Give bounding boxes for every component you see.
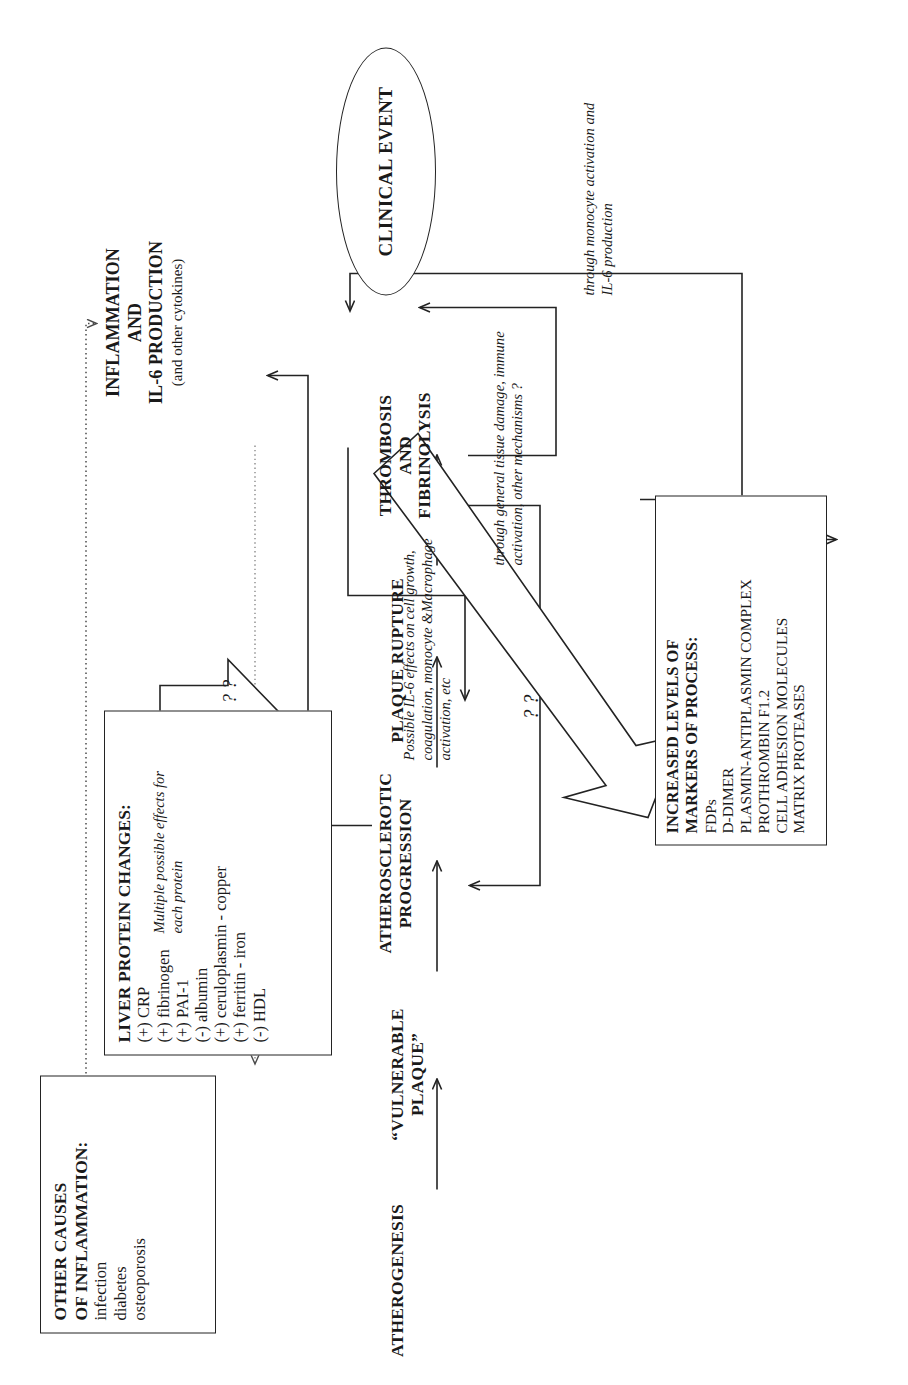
stage-progression-label-2: PROGRESSION [396, 773, 416, 953]
inflammation-il6-node: INFLAMMATION AND IL-6 PRODUCTION (and ot… [103, 204, 186, 440]
other-causes-header-line2: OF INFLAMMATION: [71, 1088, 92, 1320]
liver-protein-item-ceruloplasmin: (+) ceruloplasmin - copper [211, 723, 230, 1042]
markers-item-d-dimer: D-DIMER [719, 507, 737, 833]
other-causes-item-osteoporosis: osteoporosis [130, 1088, 149, 1320]
markers-header-line1: INCREASED LEVELS OF [664, 507, 683, 833]
inflammation-subtitle: (and other cytokines) [168, 204, 186, 440]
markers-item-prothrombin: PROTHROMBIN F1.2 [755, 507, 773, 833]
stage-atherogenesis: ATHEROGENESIS [388, 1195, 408, 1365]
liver-protein-item-ferritin: (+) ferritin - iron [230, 723, 249, 1042]
other-causes-box: OTHER CAUSES OF INFLAMMATION: infection … [40, 1075, 216, 1333]
markers-item-plasmin-antiplasmin: PLASMIN-ANTIPLASMIN COMPLEX [737, 507, 755, 833]
other-causes-item-diabetes: diabetes [111, 1088, 130, 1320]
note-il6-effects: Possible IL-6 effects on cell growth, co… [400, 528, 455, 760]
note-multiple-effects: Multiple possible effects for each prote… [150, 765, 186, 933]
liver-protein-item-hdl: (-) HDL [250, 723, 269, 1042]
liver-protein-item-albumin: (-) albumin [192, 723, 211, 1042]
stage-atherosclerotic-progression: ATHEROSCLEROTIC PROGRESSION [376, 773, 415, 953]
stage-vulnerable-plaque: “VULNERABLE PLAQUE” [388, 976, 427, 1172]
liver-protein-header: LIVER PROTEIN CHANGES: [114, 723, 134, 1042]
other-causes-item-infection: infection [91, 1088, 110, 1320]
connector-othercauses-to-inflammation [86, 323, 96, 1073]
note-tissue-damage: through general tissue damage, immune ac… [490, 323, 526, 565]
inflammation-line-3: IL-6 PRODUCTION [146, 204, 168, 440]
inflammation-line-1: INFLAMMATION [103, 204, 125, 440]
stage-vulnerable-plaque-label: “VULNERABLE PLAQUE” [388, 976, 427, 1172]
markers-item-cell-adhesion: CELL ADHESION MOLECULES [773, 507, 791, 833]
markers-item-matrix-proteases: MATRIX PROTEASES [790, 507, 808, 833]
other-causes-header-line1: OTHER CAUSES [50, 1088, 71, 1320]
connector-thrombosis-to-clinical [420, 307, 556, 455]
stage-atherogenesis-label: ATHEROGENESIS [388, 1195, 408, 1365]
markers-of-process-box: INCREASED LEVELS OF MARKERS OF PROCESS: … [655, 495, 827, 845]
stage-thrombosis-label-3: FIBRINOLYSIS [415, 365, 435, 545]
stage-thrombosis-label-1: THROMBOSIS [376, 365, 396, 545]
clinical-event-label: CLINICAL EVENT [375, 86, 397, 256]
stage-progression-label-1: ATHEROSCLEROTIC [376, 773, 396, 953]
question-marks-il6-arrow: ? ? [520, 694, 543, 719]
markers-header-line2: MARKERS OF PROCESS: [683, 507, 702, 833]
note-monocyte-activation: through monocyte activation and IL-6 pro… [580, 83, 616, 295]
clinical-event-ellipse: CLINICAL EVENT [336, 47, 436, 295]
stage-thrombosis-label-2: AND [396, 365, 416, 545]
stage-thrombosis-fibrinolysis: THROMBOSIS AND FIBRINOLYSIS [376, 365, 435, 545]
inflammation-line-2: AND [125, 204, 147, 440]
figure-stage: OTHER CAUSES OF INFLAMMATION: infection … [0, 0, 908, 1385]
question-marks-liver-arrow: ? ? [219, 679, 241, 703]
markers-item-fdps: FDPs [702, 507, 720, 833]
diagram-canvas: OTHER CAUSES OF INFLAMMATION: infection … [0, 0, 908, 1385]
liver-protein-changes-box: LIVER PROTEIN CHANGES: (+) CRP (+) fibri… [104, 710, 332, 1055]
